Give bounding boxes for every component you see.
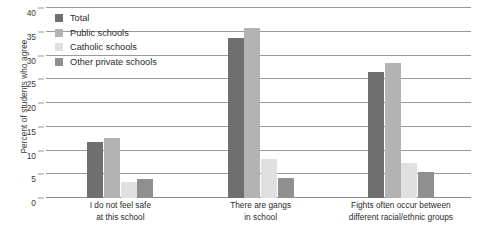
legend-item-total[interactable]: Total [55,11,157,26]
category-label-line: Fights often occur between [301,200,477,212]
bar [137,179,153,198]
legend-swatch-icon [55,29,63,37]
legend-item-other-private-schools[interactable]: Other private schools [55,55,157,70]
bar [385,63,401,198]
y-axis-tick-labels: 0510152025303540 [0,8,44,198]
bar [104,138,120,198]
y-tick-mark-5 [38,174,44,175]
legend-swatch-icon [55,14,63,22]
bar-chart: Percent of students who agree 0510152025… [0,0,477,242]
bar [418,172,434,198]
legend-swatch-icon [55,43,63,51]
bar [278,178,294,198]
y-tick-mark-10 [38,150,44,151]
y-tick-mark-30 [38,55,44,56]
legend-label: Other private schools [70,57,157,67]
legend-label: Total [70,13,89,23]
y-tick-mark-15 [38,126,44,127]
y-tick-mark-20 [38,103,44,104]
bar [87,142,103,198]
bar [228,38,244,198]
legend-swatch-icon [55,58,63,66]
legend-label: Catholic schools [70,42,137,52]
legend-item-catholic-schools[interactable]: Catholic schools [55,40,157,55]
bar-group-2 [228,8,294,198]
x-axis-category-labels: I do not feel safeat this schoolThere ar… [46,200,471,242]
chart-legend: TotalPublic schoolsCatholic schoolsOther… [55,11,157,69]
bar [121,182,137,198]
legend-item-public-schools[interactable]: Public schools [55,26,157,41]
bar-group-3 [368,8,434,198]
y-tick-mark-40 [38,8,44,9]
category-label-3: Fights often occur betweendifferent raci… [301,200,477,223]
legend-label: Public schools [70,28,129,38]
bar [244,28,260,198]
bar [261,159,277,198]
y-tick-mark-0 [38,198,44,199]
bar [401,163,417,198]
bar [368,72,384,198]
y-tick-mark-35 [38,31,44,32]
y-tick-mark-25 [38,79,44,80]
category-label-line: different racial/ethnic groups [301,212,477,224]
